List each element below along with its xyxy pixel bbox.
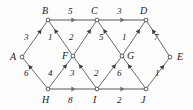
graph-canvas xyxy=(0,0,193,110)
node-layer xyxy=(20,18,172,91)
node-e xyxy=(168,55,172,59)
edge-weight-c-d: 3 xyxy=(117,7,122,16)
edge-weight-h-i: 8 xyxy=(68,96,73,105)
arrowhead-g-d xyxy=(136,29,140,34)
edge-weight-i-g: 2 xyxy=(94,69,99,78)
node-label-i: I xyxy=(93,95,96,105)
node-label-h: H xyxy=(42,95,49,105)
edge-weight-i-j: 2 xyxy=(117,96,122,105)
node-label-g: G xyxy=(127,51,134,61)
arrowhead-layer xyxy=(28,18,164,92)
arrowhead-i-f xyxy=(79,64,83,69)
node-b xyxy=(46,18,50,22)
edge-weight-b-c: 5 xyxy=(68,7,73,16)
node-a xyxy=(20,55,24,59)
arrowhead-c-d xyxy=(120,18,124,23)
edge-weight-e-d: 7 xyxy=(154,33,159,42)
node-label-b: B xyxy=(42,6,48,16)
edge-weight-i-f: 3 xyxy=(70,69,75,78)
arrowhead-j-e xyxy=(160,65,164,70)
arrowhead-h-i xyxy=(71,87,75,92)
node-g xyxy=(120,54,124,58)
edge-weight-g-d: 1 xyxy=(122,33,127,42)
edge-weight-h-a: 6 xyxy=(24,69,29,78)
edge-weight-a-b: 3 xyxy=(24,33,29,42)
arrowhead-h-f xyxy=(62,64,66,69)
graph-diagram: ABCDEFGHIJ 5382312517643261 xyxy=(0,0,193,110)
edge-layer xyxy=(22,20,170,89)
arrowhead-f-c xyxy=(87,29,91,34)
node-label-c: C xyxy=(91,6,98,16)
node-label-a: A xyxy=(10,52,16,62)
arrowhead-i-j xyxy=(120,87,124,92)
node-h xyxy=(46,87,50,91)
node-label-j: J xyxy=(141,95,145,105)
edge-weight-f-c: 2 xyxy=(69,33,74,42)
edge-f-c xyxy=(73,20,97,56)
arrowhead-i-g xyxy=(111,64,115,69)
arrowhead-j-g xyxy=(128,64,132,69)
edge-weight-h-f: 4 xyxy=(48,69,53,78)
node-j xyxy=(144,87,148,91)
edge-weight-j-e: 1 xyxy=(155,69,160,78)
edge-weight-j-g: 6 xyxy=(117,69,122,78)
edge-weight-g-c: 5 xyxy=(99,33,104,42)
node-label-e: E xyxy=(177,52,183,62)
node-f xyxy=(71,54,75,58)
node-label-f: F xyxy=(62,51,68,61)
node-label-d: D xyxy=(140,6,147,16)
node-i xyxy=(95,87,99,91)
arrowhead-b-c xyxy=(71,18,75,23)
edge-weight-f-b: 1 xyxy=(48,33,53,42)
node-c xyxy=(95,18,99,22)
arrowhead-a-b xyxy=(37,29,41,34)
arrowhead-f-b xyxy=(54,29,58,34)
node-d xyxy=(144,18,148,22)
